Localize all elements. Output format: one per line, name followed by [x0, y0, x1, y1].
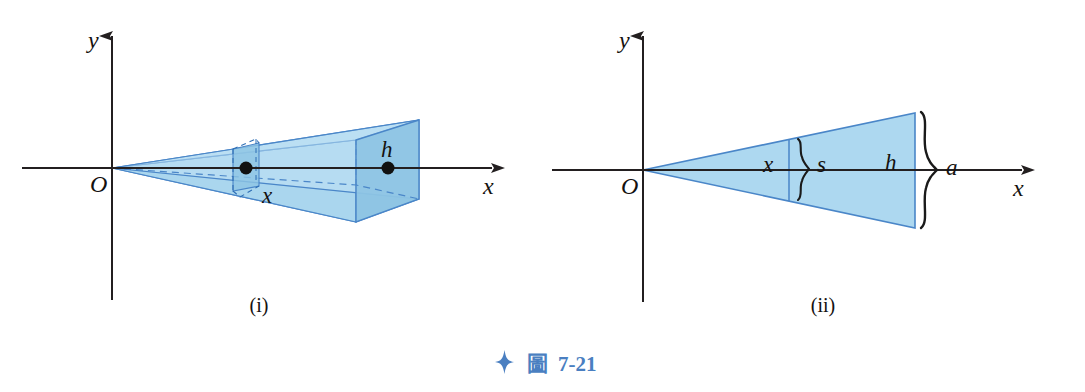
panel-i-origin-label: O: [90, 171, 107, 197]
panel-ii-origin-label: O: [621, 173, 638, 199]
panel-ii-caption: (ii): [811, 294, 835, 317]
panel-i-label-h: h: [381, 137, 393, 162]
figure-7-21-svg: y x O x h (i) y x O x s: [0, 0, 1085, 392]
caption-cjk-label: 圖: [527, 352, 548, 376]
panel-ii-label-a: a: [946, 155, 958, 180]
four-point-star-icon: [495, 350, 514, 374]
panel-i-caption: (i): [250, 294, 269, 317]
panel-i-y-axis-label: y: [86, 27, 99, 53]
panel-i: y x O x h (i): [22, 27, 494, 317]
panel-ii: y x O x s h a (ii): [552, 27, 1024, 317]
panel-i-label-x: x: [261, 183, 273, 208]
panel-ii-y-axis-label: y: [617, 27, 630, 53]
panel-i-x-axis-label: x: [482, 173, 494, 199]
cross-section-center-dot: [240, 162, 253, 175]
panel-ii-label-h: h: [885, 150, 897, 175]
base-center-dot: [382, 162, 395, 175]
caption-number: 7-21: [558, 352, 597, 376]
panel-ii-label-s: s: [817, 152, 826, 177]
figure-caption: 圖 7-21: [495, 350, 597, 376]
panel-ii-label-x: x: [762, 152, 774, 177]
panel-ii-x-axis-label: x: [1012, 175, 1024, 201]
figure-root: y x O x h (i) y x O x s: [0, 0, 1085, 392]
